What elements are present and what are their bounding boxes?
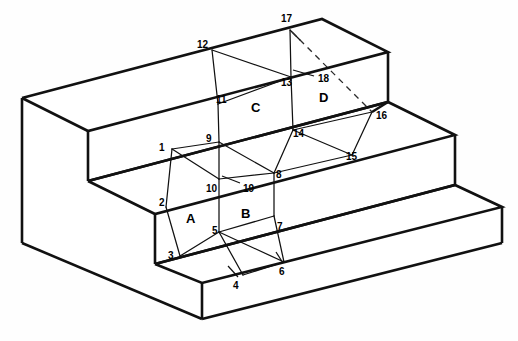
- vertex-label-6: 6: [279, 267, 285, 277]
- vertex-label-7: 7: [277, 222, 283, 232]
- vertex-label-19: 19: [243, 184, 254, 194]
- face-label-d: D: [319, 91, 328, 104]
- face-label-b: B: [241, 207, 250, 220]
- vertex-label-15: 15: [346, 152, 357, 162]
- vertex-label-10: 10: [206, 184, 217, 194]
- vertex-label-4: 4: [233, 281, 239, 291]
- vertex-label-2: 2: [159, 198, 165, 208]
- vertex-label-14: 14: [293, 129, 304, 139]
- vertex-label-1: 1: [159, 143, 165, 153]
- vertex-label-12: 12: [197, 40, 208, 50]
- face-label-a: A: [186, 212, 195, 225]
- vertex-label-3: 3: [168, 251, 174, 261]
- stepped-solid-drawing: [0, 0, 518, 341]
- vertex-label-9: 9: [206, 134, 212, 144]
- vertex-label-18: 18: [318, 74, 329, 84]
- vertex-label-8: 8: [276, 170, 282, 180]
- vertex-label-16: 16: [376, 111, 387, 121]
- vertex-label-13: 13: [281, 78, 292, 88]
- vertex-label-5: 5: [212, 226, 218, 236]
- vertex-label-11: 11: [216, 95, 227, 105]
- face-label-c: C: [251, 101, 260, 114]
- figure-container: 1 2 3 4 5 6 7 8 9 10 11 12 13 14 15 16 1…: [0, 0, 518, 341]
- vertex-label-17: 17: [281, 14, 292, 24]
